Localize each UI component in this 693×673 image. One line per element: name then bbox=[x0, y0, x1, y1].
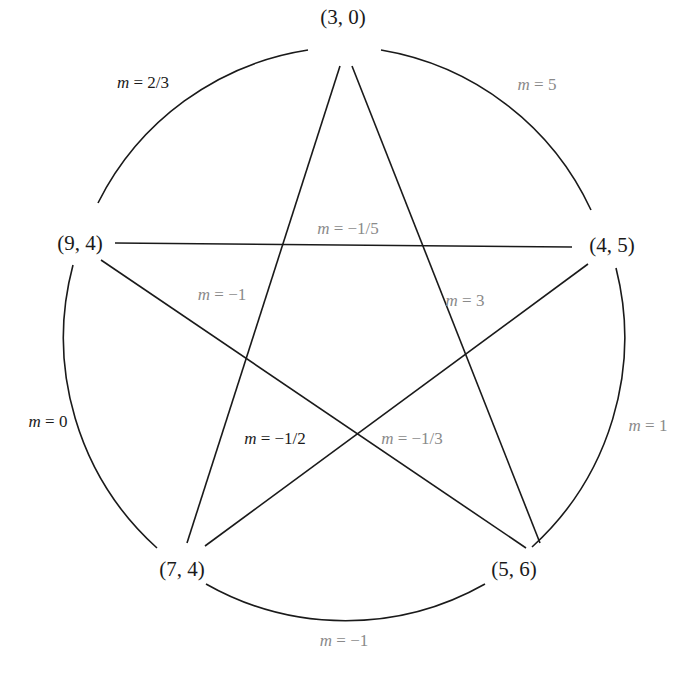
arc-slope-label-94-74: m = 0 bbox=[29, 412, 68, 432]
chord-slope-label-94-45: m = −1/5 bbox=[317, 219, 379, 239]
pentagram-circle-diagram bbox=[0, 0, 693, 673]
arc-slope-label-45-56: m = 1 bbox=[629, 416, 668, 436]
chord-slope-label-30-56: m = 3 bbox=[446, 291, 485, 311]
arc-74-56 bbox=[206, 584, 485, 621]
vertex-label-3-0: (3, 0) bbox=[320, 5, 366, 30]
arc-slope-label-30-94: m = 2/3 bbox=[117, 73, 169, 93]
arc-slope-label-30-45: m = 5 bbox=[518, 75, 557, 95]
chord-slope-label-94-56: m = −1/2 bbox=[244, 429, 306, 449]
vertex-label-9-4: (9, 4) bbox=[57, 231, 103, 256]
vertex-label-5-6: (5, 6) bbox=[491, 557, 537, 582]
chord-94-45 bbox=[115, 243, 572, 247]
chord-slope-label-45-74: m = −1/3 bbox=[381, 429, 443, 449]
chord-slope-label-30-74: m = −1 bbox=[198, 285, 246, 305]
vertex-label-7-4: (7, 4) bbox=[159, 557, 205, 582]
arc-45-56 bbox=[532, 268, 625, 547]
arc-30-45 bbox=[381, 50, 591, 210]
arc-94-74 bbox=[63, 265, 157, 548]
arc-slope-label-74-56: m = −1 bbox=[320, 631, 368, 651]
vertex-label-4-5: (4, 5) bbox=[589, 233, 635, 258]
